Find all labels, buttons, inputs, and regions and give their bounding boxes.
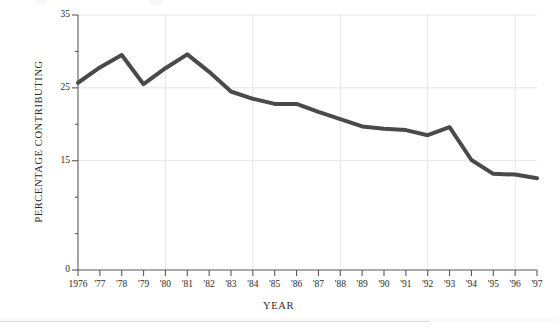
y-tick-label: 0 bbox=[40, 264, 70, 274]
footer-divider bbox=[0, 321, 430, 322]
horizontal-gridlines bbox=[78, 15, 537, 161]
x-axis-title: YEAR bbox=[0, 300, 557, 311]
vertical-gridlines bbox=[165, 15, 515, 270]
y-axis-title: PERCENTAGE CONTRIBUTING bbox=[33, 42, 44, 242]
chart-figure: 0152535 1976'77'78'79'80'81'82'83'84'85'… bbox=[0, 0, 557, 333]
y-axis-ticks bbox=[72, 15, 78, 270]
y-tick-label: 15 bbox=[40, 155, 70, 165]
x-axis-ticks bbox=[78, 270, 537, 276]
x-tick-label: '97 bbox=[521, 279, 553, 289]
y-tick-label: 25 bbox=[40, 82, 70, 92]
axis-lines bbox=[78, 15, 537, 270]
y-tick-label: 35 bbox=[40, 9, 70, 19]
data-series-line bbox=[78, 54, 537, 178]
